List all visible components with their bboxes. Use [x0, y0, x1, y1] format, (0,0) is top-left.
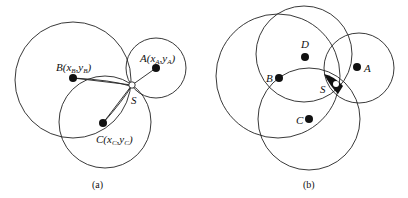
node-c-label: C — [296, 114, 304, 126]
node-c-dot — [305, 115, 313, 123]
target-label-s: S — [320, 83, 326, 95]
node-a-label: A(xA,yA) — [139, 52, 175, 66]
target-point-s — [333, 81, 339, 87]
node-c-label: C(xC,yC) — [96, 133, 133, 147]
caption-b: (b) — [303, 179, 315, 191]
target-point-s — [129, 82, 135, 88]
node-b-label: B(xB,yB) — [56, 61, 91, 75]
node-d-label: D — [300, 38, 309, 50]
node-b-dot — [69, 74, 77, 82]
target-label-s: S — [131, 94, 137, 106]
node-d-dot — [301, 53, 309, 61]
node-c-dot — [99, 119, 107, 127]
caption-a: (a) — [92, 179, 103, 191]
node-a-label: A — [363, 62, 371, 74]
node-b-dot — [275, 74, 283, 82]
distance-line-a-s — [132, 68, 156, 85]
diagram-canvas: A(xA,yA) B(xB,yB) C(xC,yC) S (a) A B C D… — [0, 0, 408, 198]
panel-a: A(xA,yA) B(xB,yB) C(xC,yC) S (a) — [15, 22, 186, 191]
node-b-label: B — [266, 72, 273, 84]
panel-b: A B C D S (b) — [216, 6, 394, 191]
node-a-dot — [353, 63, 361, 71]
